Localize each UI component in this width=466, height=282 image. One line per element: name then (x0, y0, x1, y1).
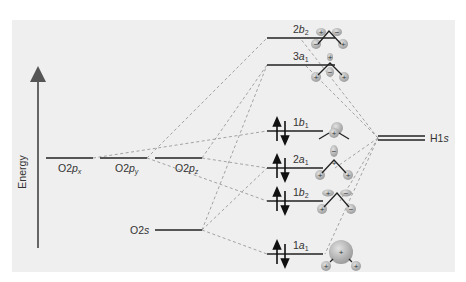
svg-text:+: + (354, 262, 359, 271)
mo-diagram: Energy O2px O2py O2pz O2s H1s (0, 0, 466, 282)
mo-1b2-label: 1b2 (293, 186, 309, 199)
energy-label: Energy (16, 155, 28, 189)
svg-text:+: + (318, 171, 323, 180)
o2py-label: O2py (115, 162, 139, 176)
orbital-3a1-icon: + + + − (311, 53, 349, 82)
hydrogen-orbitals: H1s (378, 132, 449, 144)
svg-text:+: + (320, 205, 325, 214)
svg-text:+: + (332, 129, 337, 138)
svg-text:+: + (328, 53, 333, 62)
energy-axis: Energy (16, 74, 38, 248)
mo-1a1-label: 1a1 (293, 239, 309, 252)
oxygen-orbitals: O2px O2py O2pz O2s (46, 158, 202, 236)
svg-text:−: − (314, 40, 319, 49)
svg-text:−: − (335, 28, 340, 37)
svg-text:+: + (342, 73, 347, 82)
mo-2a1-label: 2a1 (293, 153, 309, 166)
svg-text:−: − (349, 205, 354, 214)
mo-2b2-label: 2b2 (293, 23, 309, 36)
h1s-label: H1s (430, 132, 449, 144)
svg-text:+: + (339, 248, 344, 257)
o2px-label: O2px (58, 162, 82, 175)
svg-text:+: + (346, 171, 351, 180)
electron-pairs (274, 118, 289, 267)
svg-text:+: + (341, 40, 346, 49)
svg-text:+: + (332, 159, 337, 168)
svg-text:−: − (344, 189, 349, 198)
o2pz-label: O2pz (175, 162, 199, 175)
svg-text:−: − (328, 68, 333, 77)
orbital-2a1-icon: − + + + (315, 145, 353, 180)
svg-text:+: + (324, 262, 329, 271)
svg-text:+: + (326, 189, 331, 198)
orbital-1a1-icon: + + + (321, 240, 361, 271)
o2s-label: O2s (130, 224, 150, 236)
orbital-1b1-icon: + (319, 122, 349, 139)
mo-1b1-label: 1b1 (293, 116, 309, 129)
svg-text:+: + (314, 73, 319, 82)
svg-text:+: + (319, 28, 324, 37)
mo-3a1-label: 3a1 (293, 50, 309, 63)
svg-text:−: − (332, 147, 337, 156)
